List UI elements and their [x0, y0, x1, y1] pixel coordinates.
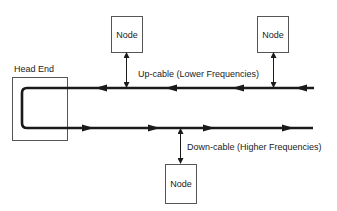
down-cable-label: Down-cable (Higher Frequencies) [187, 142, 322, 152]
node-3-label: Node [170, 179, 192, 189]
head-end-label: Head End [14, 64, 54, 74]
arrow-right-icon [82, 125, 94, 132]
arrow-right-icon [148, 125, 160, 132]
arrow-left-icon [232, 85, 244, 92]
node-2-label: Node [262, 30, 284, 40]
arrow-right-icon [282, 125, 294, 132]
arrow-left-icon [295, 85, 307, 92]
arrow-right-icon [203, 125, 215, 132]
arrow-left-icon [95, 85, 107, 92]
cable-network-diagram: Head End Node Node [0, 0, 337, 211]
diagram-svg: Head End Node Node [0, 0, 337, 211]
cable-loop [22, 88, 314, 128]
up-cable-label: Up-cable (Lower Frequencies) [138, 69, 259, 79]
node-2: Node [258, 17, 289, 86]
arrow-left-icon [165, 85, 177, 92]
node-1-label: Node [116, 30, 138, 40]
